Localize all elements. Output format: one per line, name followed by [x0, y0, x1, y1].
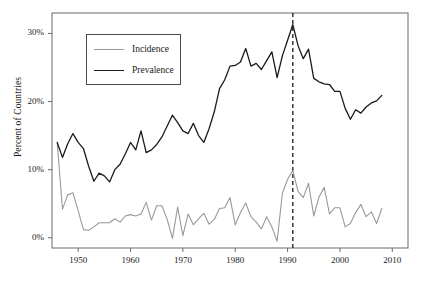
legend-line-swatch-icon [94, 70, 124, 71]
x-axis-tick-label: 1970 [163, 256, 203, 265]
x-axis-tick-label: 1990 [268, 256, 308, 265]
legend-line-swatch-icon [94, 49, 124, 50]
legend-item-prevalence[interactable]: Prevalence [87, 60, 180, 81]
legend-item-label: Incidence [132, 45, 169, 55]
x-axis-tick-label: 1950 [58, 256, 98, 265]
chart-legend: IncidencePrevalence [86, 34, 181, 85]
chart-plot-svg [0, 0, 426, 282]
x-axis-tick-label: 2000 [320, 256, 360, 265]
series-line-incidence [57, 143, 382, 241]
y-axis-tick-label: 0% [18, 233, 44, 242]
y-axis-label: Percent of Countries [13, 52, 23, 182]
y-axis-tick-label: 10% [18, 165, 44, 174]
y-axis-tick-label: 20% [18, 97, 44, 106]
chart-figure: Percent of Countries 0%10%20%30% 1950196… [0, 0, 426, 282]
y-axis-tick-label: 30% [18, 28, 44, 37]
x-axis-tick-label: 1960 [111, 256, 151, 265]
legend-item-label: Prevalence [132, 66, 174, 76]
x-axis-tick-label: 2010 [372, 256, 412, 265]
legend-item-incidence[interactable]: Incidence [87, 39, 180, 60]
x-axis-tick-label: 1980 [215, 256, 255, 265]
